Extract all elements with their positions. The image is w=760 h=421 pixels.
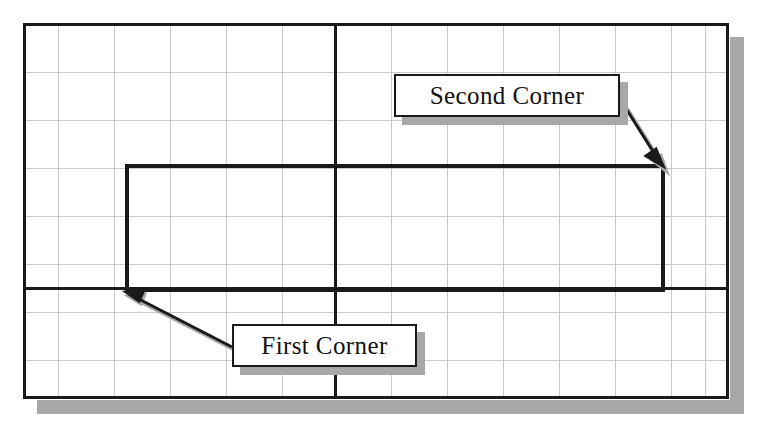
diagram-canvas: Second Corner First Corner	[0, 0, 760, 421]
first-corner-callout[interactable]: First Corner	[232, 324, 417, 367]
second-corner-callout[interactable]: Second Corner	[394, 74, 620, 117]
first-corner-callout-label: First Corner	[261, 332, 387, 360]
second-corner-callout-label: Second Corner	[430, 82, 584, 110]
frame-shadow-bottom	[37, 400, 744, 414]
frame-shadow-right	[730, 37, 744, 414]
